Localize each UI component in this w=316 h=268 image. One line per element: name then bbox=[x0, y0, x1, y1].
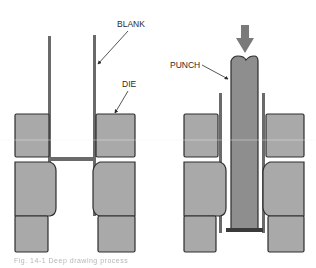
punch bbox=[231, 56, 258, 230]
die-label: DIE bbox=[122, 79, 137, 89]
deep-drawing-diagram: BLANK DIE PUNCH bbox=[0, 0, 316, 268]
blank-label: BLANK bbox=[117, 19, 145, 29]
right-panel: PUNCH bbox=[170, 25, 304, 252]
die-right-2 bbox=[263, 114, 304, 252]
punch-label: PUNCH bbox=[170, 60, 200, 70]
punch-leader-line bbox=[202, 65, 228, 79]
blank-leader-line bbox=[98, 31, 128, 64]
die-right bbox=[93, 114, 135, 252]
down-arrow-icon bbox=[236, 25, 254, 53]
blank-cup-bottom bbox=[226, 228, 263, 232]
die-leader-line bbox=[115, 91, 128, 113]
left-panel: BLANK DIE bbox=[15, 19, 145, 252]
blank-bottom bbox=[48, 157, 96, 161]
figure-caption: Fig. 14-1 Deep drawing process bbox=[14, 257, 128, 264]
